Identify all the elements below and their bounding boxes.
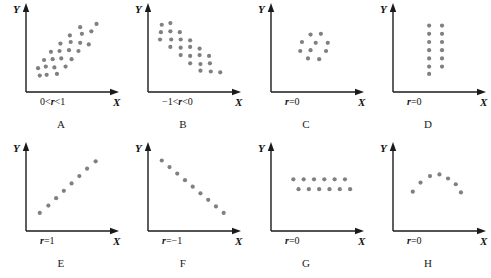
x-axis-arrow xyxy=(477,89,486,95)
y-axis-arrow xyxy=(268,142,274,151)
data-point xyxy=(160,158,164,162)
data-point xyxy=(307,187,311,191)
data-point xyxy=(222,211,226,215)
data-point xyxy=(348,187,352,191)
data-point xyxy=(312,177,316,181)
data-point-group xyxy=(160,158,226,215)
data-point xyxy=(168,29,172,33)
scatter-panel-b: YX−1<r<0B xyxy=(122,0,244,139)
data-point xyxy=(319,32,323,36)
x-axis-arrow xyxy=(232,228,241,234)
correlation-annotation-f: r=−1 xyxy=(162,235,182,246)
data-point xyxy=(198,53,202,57)
data-point xyxy=(327,187,331,191)
data-point xyxy=(62,189,66,193)
data-point xyxy=(207,54,211,58)
data-point xyxy=(52,65,56,69)
correlation-annotation-c: r=0 xyxy=(285,96,300,107)
data-point xyxy=(459,190,463,194)
data-point xyxy=(175,172,179,176)
x-axis-label: X xyxy=(357,96,366,108)
data-point xyxy=(179,53,183,57)
panel-caption-e: E xyxy=(0,257,122,269)
data-point xyxy=(291,177,295,181)
panel-caption-c: C xyxy=(245,118,367,130)
y-axis-arrow xyxy=(23,142,29,151)
scatter-panel-g: YXr=0G xyxy=(245,139,367,278)
data-point xyxy=(159,30,163,34)
data-point xyxy=(333,177,337,181)
data-point xyxy=(302,177,306,181)
x-axis-arrow xyxy=(355,228,364,234)
data-point xyxy=(418,181,422,185)
correlation-annotation-e: r=1 xyxy=(40,235,55,246)
y-axis-arrow xyxy=(390,3,396,12)
data-point xyxy=(198,191,202,195)
panel-caption-b: B xyxy=(122,118,244,130)
data-point xyxy=(440,23,444,27)
data-point xyxy=(427,23,431,27)
data-point xyxy=(58,42,62,46)
data-point xyxy=(68,33,72,37)
x-axis-label: X xyxy=(234,96,243,108)
data-point xyxy=(214,204,218,208)
data-point xyxy=(437,172,441,176)
data-point xyxy=(160,23,164,27)
data-point xyxy=(296,187,300,191)
data-point xyxy=(308,48,312,52)
data-point xyxy=(338,187,342,191)
data-point-group xyxy=(38,159,98,215)
data-point xyxy=(51,57,55,61)
data-point xyxy=(67,48,71,52)
data-point xyxy=(440,32,444,36)
data-point xyxy=(206,198,210,202)
x-axis-label: X xyxy=(479,235,488,247)
x-axis-label: X xyxy=(357,235,366,247)
y-axis-arrow xyxy=(268,3,274,12)
data-point xyxy=(322,177,326,181)
data-point xyxy=(209,69,213,73)
data-point-group xyxy=(427,23,444,76)
x-axis-arrow xyxy=(110,89,119,95)
y-axis-label: Y xyxy=(258,142,266,154)
data-point xyxy=(42,58,46,62)
data-point xyxy=(427,72,431,76)
data-point xyxy=(87,42,91,46)
data-point-group xyxy=(291,177,352,191)
data-point xyxy=(69,181,73,185)
data-point xyxy=(306,56,310,60)
data-point xyxy=(427,56,431,60)
y-axis-arrow xyxy=(145,3,151,12)
y-axis-label: Y xyxy=(135,142,143,154)
data-point xyxy=(300,40,304,44)
panel-caption-g: G xyxy=(245,257,367,269)
data-point xyxy=(427,32,431,36)
data-point xyxy=(198,46,202,50)
panel-caption-f: F xyxy=(122,257,244,269)
data-point xyxy=(411,190,415,194)
data-point xyxy=(326,41,330,45)
data-point xyxy=(317,57,321,61)
y-axis-label: Y xyxy=(135,3,143,15)
correlation-scatterplot-figure: YX0<r<1AYX−1<r<0BYXr=0CYXr=0DYXr=1EYXr=−… xyxy=(0,0,491,278)
x-axis-label: X xyxy=(234,235,243,247)
data-point xyxy=(440,56,444,60)
data-point xyxy=(179,37,183,41)
data-point xyxy=(44,64,48,68)
data-point xyxy=(188,45,192,49)
data-point xyxy=(427,64,431,68)
data-point xyxy=(446,176,450,180)
data-point xyxy=(76,49,80,53)
data-point xyxy=(178,30,182,34)
data-point xyxy=(440,48,444,52)
data-point xyxy=(428,174,432,178)
x-axis-arrow xyxy=(232,89,241,95)
data-point xyxy=(77,174,81,178)
data-point xyxy=(198,62,202,66)
scatter-panel-h: YXr=0H xyxy=(367,139,489,278)
x-axis-arrow xyxy=(355,89,364,95)
scatter-panel-c: YXr=0C xyxy=(245,0,367,139)
data-point-group xyxy=(36,22,99,78)
data-point xyxy=(168,21,172,25)
data-point xyxy=(89,29,93,33)
